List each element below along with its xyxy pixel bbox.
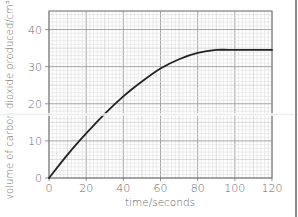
y-tick-label: 10 [28, 135, 42, 148]
x-tick-label: 0 [46, 182, 53, 195]
page-edge-divider [295, 0, 297, 217]
x-tick-label: 40 [116, 182, 130, 195]
x-axis-label: time/seconds [125, 196, 195, 208]
x-tick-label: 100 [224, 182, 245, 195]
x-tick-label: 60 [154, 182, 168, 195]
chart-grid [49, 11, 272, 178]
y-tick-label: 20 [28, 98, 42, 111]
y-axis-ticks: 010203040 [28, 24, 49, 185]
y-tick-label: 40 [28, 24, 42, 37]
x-axis-ticks: 020406080100120 [46, 178, 283, 195]
x-tick-label: 120 [262, 182, 283, 195]
y-axis-label: volume of carbon dioxide produced/cm³ [4, 0, 15, 200]
y-tick-label: 0 [35, 172, 42, 185]
y-tick-label: 30 [28, 61, 42, 74]
x-tick-label: 80 [191, 182, 205, 195]
scan-artifact-band [0, 113, 298, 116]
x-tick-label: 20 [79, 182, 93, 195]
line-chart: 010203040 020406080100120 time/seconds v… [0, 0, 298, 217]
